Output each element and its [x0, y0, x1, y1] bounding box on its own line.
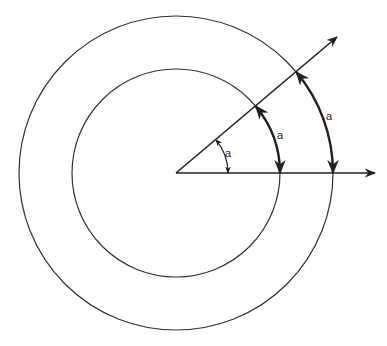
outer-arc-length — [296, 72, 333, 173]
outer-arc-label: a — [326, 110, 333, 122]
inner-arc-label: a — [277, 129, 284, 141]
diagonal-ray — [176, 37, 337, 173]
small-arc-label: a — [225, 147, 232, 159]
angle-diagram: a a a — [0, 0, 387, 346]
